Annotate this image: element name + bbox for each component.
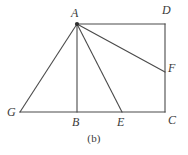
vertex-label-A: A [71,7,78,19]
segment-GA [20,24,77,112]
segment-AF [77,24,165,72]
vertex-label-G: G [7,106,16,118]
figure-caption: (b) [0,132,188,144]
vertex-label-D: D [162,4,171,16]
vertex-marker-A [75,22,79,26]
vertex-label-F: F [168,62,175,74]
vertex-label-E: E [117,116,124,128]
segment-AE [77,24,122,112]
geometry-figure: A D F C G B E (b) [0,0,188,155]
vertex-label-C: C [168,114,176,126]
vertex-label-B: B [72,116,79,128]
